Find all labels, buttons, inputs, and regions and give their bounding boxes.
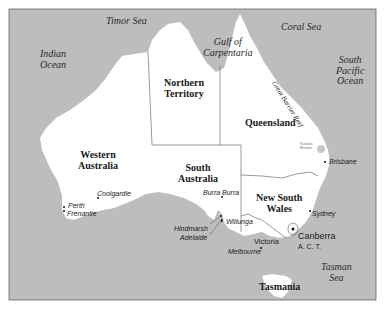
label-northern-territory: Northern Territory: [164, 78, 204, 99]
label-nsw-line2: Wales: [266, 203, 292, 214]
label-fremantle: Frenantle: [67, 210, 97, 217]
label-nt-line2: Territory: [164, 88, 204, 99]
label-small-line2: Mission: [300, 146, 312, 150]
label-wa-line1: Western: [80, 149, 116, 160]
label-sydney: Sydney: [312, 210, 335, 217]
label-tasmania: Tasmania: [259, 282, 300, 293]
label-queensland: Queensland: [245, 118, 296, 129]
label-south-pacific-line3: Ocean: [337, 75, 363, 86]
label-indian-ocean-line1: Indian: [40, 48, 66, 59]
label-south-pacific-ocean: South Pacific Ocean: [336, 55, 364, 87]
label-indian-ocean-line2: Ocean: [40, 59, 66, 70]
label-act: A. C. T.: [298, 243, 321, 250]
label-gulf-of-carpentaria: Gulf of Carpentaria: [203, 37, 252, 58]
label-gulf-line1: Gulf of: [214, 36, 242, 47]
label-canberra: Canberra: [298, 232, 336, 241]
label-melbourne: Melbourne: [228, 248, 261, 255]
label-timor-sea: Timor Sea: [106, 16, 147, 27]
label-burra-burra: Burra Burra: [203, 189, 239, 196]
label-wa-line2: Australia: [78, 160, 118, 171]
label-adelaide: Adelaide: [180, 234, 207, 241]
label-south-pacific-line1: South: [339, 54, 362, 65]
label-nt-line1: Northern: [164, 77, 204, 88]
label-tasman-line2: Sea: [329, 272, 343, 283]
label-south-australia: South Australia: [178, 163, 218, 184]
label-tasman-sea: Tasman Sea: [321, 262, 352, 283]
label-coolgardie: Coolgardie: [97, 190, 131, 197]
label-nsw-line1: New South: [256, 192, 302, 203]
label-sa-line1: South: [185, 162, 210, 173]
label-new-south-wales: New South Wales: [256, 193, 302, 214]
label-small-coastal-note: Kumalie Mission: [300, 143, 313, 150]
label-willunga: Willunga: [226, 218, 253, 225]
label-victoria: Victoria: [254, 238, 279, 246]
label-coral-sea: Coral Sea: [281, 22, 321, 33]
label-tasman-line1: Tasman: [321, 261, 352, 272]
label-hindmarsh: Hindmarsh: [174, 225, 208, 232]
label-indian-ocean: Indian Ocean: [40, 49, 66, 70]
label-south-pacific-line2: Pacific: [336, 65, 364, 76]
label-sa-line2: Australia: [178, 173, 218, 184]
label-western-australia: Western Australia: [78, 150, 118, 171]
label-perth: Perth: [68, 202, 85, 209]
label-gulf-line2: Carpentaria: [203, 47, 252, 58]
label-brisbane: Brisbane: [329, 158, 357, 165]
island-dot: [317, 145, 325, 153]
